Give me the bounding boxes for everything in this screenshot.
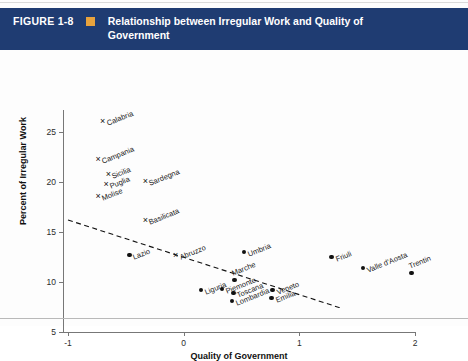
x-tick-mark: [415, 332, 416, 336]
x-tick-label: -1: [55, 338, 81, 348]
x-axis-line: [63, 332, 415, 333]
figure-title: Relationship between Irregular Work and …: [108, 15, 408, 42]
figure-header-banner: FIGURE 1-8 Relationship between Irregula…: [0, 8, 468, 50]
x-tick-mark: [68, 332, 69, 336]
x-tick-mark: [299, 332, 300, 336]
bottom-divider: [0, 318, 468, 319]
x-tick-label: 0: [171, 338, 197, 348]
figure-header-content: FIGURE 1-8 Relationship between Irregula…: [13, 15, 458, 42]
data-point-marker: [269, 296, 274, 301]
x-tick-label: 2: [402, 338, 428, 348]
y-tick-label: 5: [30, 327, 56, 337]
orange-square-icon: [86, 17, 95, 26]
top-divider: [0, 2, 468, 3]
x-tick-mark: [184, 332, 185, 336]
plot-area: 510152025 -1012 Percent of Irregular Wor…: [0, 50, 468, 308]
x-tick-label: 1: [286, 338, 312, 348]
y-tick-mark: [59, 332, 63, 333]
x-axis-label: Quality of Government: [139, 351, 339, 361]
data-point-marker: [409, 271, 414, 276]
figure-number: FIGURE 1-8: [13, 15, 74, 27]
